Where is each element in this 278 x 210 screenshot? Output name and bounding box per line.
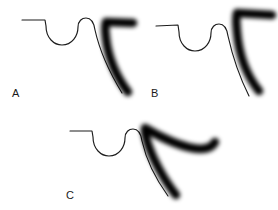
panel-b-art: [156, 13, 272, 96]
panel-c-art: [70, 128, 215, 196]
panel-label-b: B: [151, 88, 159, 99]
panel-label-a: A: [12, 88, 20, 99]
figure-artwork: [0, 0, 278, 210]
panel-c-thick-arrow-stroke: [145, 128, 215, 195]
panel-a-thick-arrow-stroke: [105, 22, 133, 92]
panel-a-art: [22, 18, 133, 93]
figure-canvas: A B C: [0, 0, 278, 210]
panel-label-c: C: [66, 190, 74, 201]
